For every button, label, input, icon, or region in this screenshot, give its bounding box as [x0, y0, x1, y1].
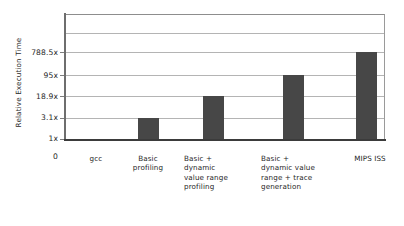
x-tick-label-bdvrtg-line-3: range + trace	[261, 173, 337, 182]
x-tick-label-bdvrp-line-2: dynamic	[184, 163, 246, 172]
gridline-95	[66, 75, 384, 76]
gridline-3	[66, 118, 384, 119]
plot-area	[65, 14, 385, 140]
y-axis-tick-labels: 788.5x 95x 18.9x 3.1x 1x 0	[0, 0, 58, 226]
y-tick-label-95: 95x	[44, 71, 58, 80]
gridline-788	[66, 52, 384, 53]
y-axis-spine	[64, 13, 66, 141]
gridline-18	[66, 96, 384, 97]
x-tick-label-bdvrp-line-3: value range	[184, 173, 246, 182]
y-tick-label-18: 18.9x	[36, 92, 58, 101]
y-tick-label-3: 3.1x	[41, 113, 58, 122]
x-tick-label-bdvrtg-line-2: dynamic value	[261, 163, 337, 172]
y-tick-label-0: 0	[53, 152, 58, 161]
x-axis-tick-labels: gcc Basic profiling Basic + dynamic valu…	[65, 144, 385, 224]
bar-basic-plus-dynamic-value-range-profiling	[203, 96, 224, 141]
x-tick-label-basic-profiling-line-2: profiling	[117, 163, 179, 172]
x-tick-label-basic-dynamic-value-range-trace-generation: Basic + dynamic value range + trace gene…	[261, 154, 337, 192]
x-tick-label-basic-profiling-line-1: Basic	[117, 154, 179, 163]
x-axis-spine	[64, 139, 386, 141]
bar-chart-figure: Relative Execution Time 788.5x 95x 18.9x…	[0, 0, 404, 226]
x-tick-label-bdvrtg-line-4: generation	[261, 182, 337, 191]
x-tick-label-bdvrp-line-4: profiling	[184, 182, 246, 191]
x-tick-label-mips-iss-line-1: MIPS ISS	[339, 154, 401, 163]
bar-basic-profiling	[138, 118, 159, 141]
x-tick-label-basic-profiling: Basic profiling	[117, 154, 179, 173]
x-tick-label-bdvrp-line-1: Basic +	[184, 154, 246, 163]
bar-basic-plus-dynamic-value-range-plus-trace-generation	[283, 75, 304, 141]
y-tick-label-1: 1x	[48, 134, 58, 143]
x-tick-label-mips-iss: MIPS ISS	[339, 154, 401, 163]
x-tick-label-basic-dynamic-value-range-profiling: Basic + dynamic value range profiling	[184, 154, 246, 192]
y-tick-label-788: 788.5x	[31, 48, 58, 57]
gridline-upper	[66, 33, 384, 34]
x-tick-label-bdvrtg-line-1: Basic +	[261, 154, 337, 163]
bar-mips-iss	[356, 52, 377, 141]
